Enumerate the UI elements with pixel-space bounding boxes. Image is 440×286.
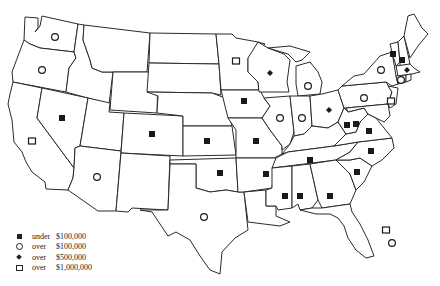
legend-row: over $100,000 (12, 242, 92, 253)
marker-or-open-circle (39, 67, 46, 74)
marker-wv-filled-square (344, 122, 350, 128)
legend-word: over (32, 241, 56, 252)
marker-ok-filled-square (217, 170, 223, 176)
legend-amount: $500,000 (56, 252, 86, 263)
state-fl (300, 204, 374, 258)
marker-pa-open-circle (361, 95, 368, 102)
state-ny (342, 52, 398, 86)
legend-amount: $100,000 (56, 241, 86, 252)
marker-fl-open-square (383, 227, 390, 233)
marker-ar-filled-square (263, 171, 269, 177)
marker-ga-filled-square (327, 193, 333, 199)
open-square-icon (16, 265, 23, 271)
legend-word: over (32, 262, 56, 273)
legend-row: under $100,000 (12, 231, 92, 242)
marker-nv-filled-square (59, 115, 65, 121)
marker-co-filled-square (149, 131, 155, 137)
marker-va-filled-square (366, 128, 372, 134)
state-mt (83, 25, 150, 72)
marker-mo-filled-square (253, 138, 259, 144)
marker-mi-open-circle (305, 83, 312, 90)
marker-in-open-circle (299, 115, 306, 122)
marker-mn-open-square (233, 58, 240, 64)
state-ar (236, 158, 276, 192)
legend: under $100,000 over $100,000 over $500,0… (12, 231, 92, 273)
legend-word: under (32, 231, 56, 242)
state-sd (147, 63, 221, 95)
marker-ms-filled-square (282, 193, 288, 199)
marker-az-open-circle (94, 174, 101, 181)
marker-tx-open-circle (201, 214, 208, 221)
marker-nc-filled-square (368, 148, 374, 154)
legend-row: over $500,000 (12, 252, 92, 263)
marker-ks-filled-square (204, 138, 210, 144)
state-ri (406, 74, 411, 82)
open-circle-icon (16, 243, 23, 250)
marker-vt-filled-square (390, 51, 396, 57)
marker-tn-filled-square (307, 157, 313, 163)
legend-row: over $1,000,000 (12, 263, 92, 274)
marker-wa-open-circle (52, 34, 59, 41)
marker-ct-open-circle (398, 77, 405, 84)
legend-amount: $1,000,000 (56, 262, 92, 273)
state-nm (116, 153, 170, 212)
marker-il-open-circle (277, 115, 284, 122)
legend-word: over (32, 252, 56, 263)
state-nd (149, 33, 219, 64)
marker-sc-filled-square (354, 169, 360, 175)
legend-amount: $100,000 (56, 231, 86, 242)
marker-ky-filled-square (353, 121, 359, 127)
marker-ny-open-circle (378, 67, 385, 74)
marker-ca-open-square (29, 138, 36, 144)
marker-al-filled-square (297, 193, 303, 199)
marker-fl-open-circle (389, 240, 396, 247)
marker-nh-filled-square (399, 57, 405, 63)
filled-diamond-icon (16, 254, 22, 260)
filled-square-icon (17, 234, 22, 239)
marker-nj-open-square (388, 98, 395, 104)
marker-ia-filled-square (241, 98, 247, 104)
